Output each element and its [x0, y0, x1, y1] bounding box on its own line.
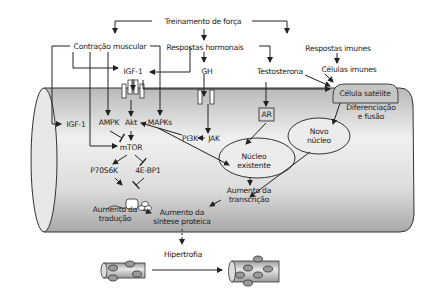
label-4ebp1: 4E-BP1	[135, 166, 161, 175]
label-gh: GH	[201, 67, 212, 76]
label-contracao: Contração muscular	[74, 42, 147, 51]
label-sintese-2: síntese proteica	[153, 217, 210, 226]
label-hipertrofia: Hipertrofia	[164, 250, 202, 259]
label-traducao-2: tradução	[99, 214, 131, 223]
label-traducao-1: Aumento da	[93, 205, 137, 214]
label-sintese-1: Aumento da	[160, 208, 204, 217]
label-akt: Akt	[125, 118, 137, 127]
label-novo-nucleo-2: núcleo	[307, 136, 331, 145]
label-transcricao-2: transcrição	[229, 195, 269, 204]
label-igf1-top: IGF-1	[123, 67, 142, 76]
label-jak: JAK	[208, 134, 220, 143]
label-pi3k: PI3K	[182, 134, 198, 143]
label-hormonais: Respostas hormonais	[166, 43, 243, 52]
label-novo-nucleo-1: Novo	[310, 127, 329, 136]
label-imunes: Respostas imunes	[305, 44, 371, 53]
small-fiber-icon	[101, 261, 145, 281]
label-testosterona: Testosterona	[257, 67, 303, 76]
label-mtor: mTOR	[120, 143, 143, 152]
label-nucleo-existente-2: existente	[237, 161, 270, 170]
large-fiber-icon	[229, 256, 280, 286]
label-celula-satelite: Célula satélite	[339, 89, 390, 98]
label-igf1-inner: IGF-1	[66, 120, 85, 129]
label-nucleo-existente-1: Núcleo	[242, 152, 267, 161]
label-ampk: AMPK	[99, 118, 120, 127]
label-celulas-imunes: Células imunes	[322, 65, 377, 74]
label-diferenciacao-1: Diferenciação	[346, 103, 396, 112]
label-mapks: MAPKs	[148, 118, 172, 127]
label-transcricao-1: Aumento da	[227, 186, 271, 195]
label-treinamento: Treinamento de força	[165, 17, 242, 26]
label-diferenciacao-2: e fusão	[358, 112, 384, 121]
label-p70s6k: P70S6K	[90, 166, 118, 175]
label-ar: AR	[261, 110, 271, 119]
